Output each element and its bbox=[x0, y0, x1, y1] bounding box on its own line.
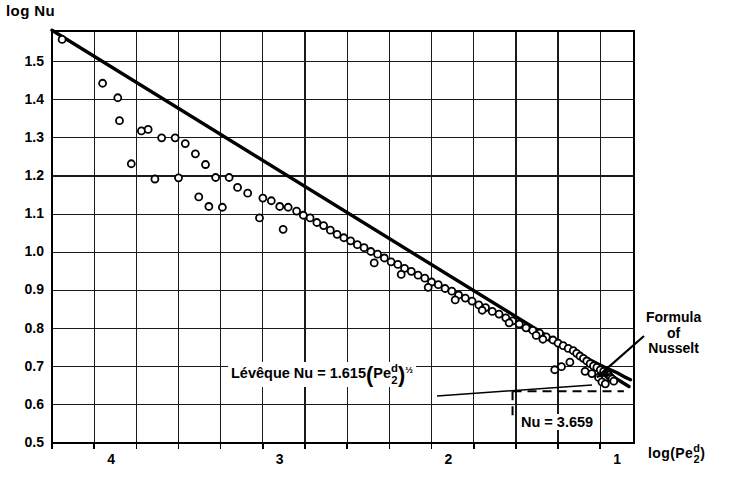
y-tick-label: 0.8 bbox=[2, 320, 44, 336]
x-axis-label-suffix: ) bbox=[700, 445, 705, 461]
x-axis-label-base: Pe bbox=[675, 445, 693, 461]
chart-figure: log Nu log(Ped2) 0.50.60.70.80.91.01.11.… bbox=[0, 0, 736, 479]
leveque-exponent: ⅓ bbox=[405, 365, 413, 375]
y-tick-label: 1.3 bbox=[2, 129, 44, 145]
y-tick-label: 1.1 bbox=[2, 205, 44, 221]
y-tick-label: 0.5 bbox=[2, 434, 44, 450]
x-axis-label: log(Ped2) bbox=[648, 443, 705, 465]
x-tick-label: 4 bbox=[96, 451, 126, 467]
formula-of-nusselt-annotation: Formula of Nusselt bbox=[646, 310, 701, 357]
y-tick-label: 1.0 bbox=[2, 243, 44, 259]
x-tick-label: 2 bbox=[433, 451, 463, 467]
data-points bbox=[59, 36, 618, 387]
y-tick-label: 1.4 bbox=[2, 91, 44, 107]
leveque-fraction: d2 bbox=[391, 363, 398, 386]
x-tick-label: 1 bbox=[602, 451, 632, 467]
x-tick-label: 3 bbox=[265, 451, 295, 467]
nu-asymptote-annotation: Nu = 3.659 bbox=[518, 414, 596, 430]
y-tick-label: 1.2 bbox=[2, 167, 44, 183]
leveque-formula-prefix: Lévêque Nu = 1.615 bbox=[231, 365, 366, 381]
leveque-formula-annotation: Lévêque Nu = 1.615(Ped2)⅓ bbox=[228, 362, 416, 387]
plot-canvas bbox=[0, 0, 736, 479]
x-axis-label-prefix: log( bbox=[648, 445, 675, 461]
y-tick-label: 0.7 bbox=[2, 358, 44, 374]
y-tick-label: 0.9 bbox=[2, 281, 44, 297]
leveque-base: Pe bbox=[373, 365, 391, 381]
formula-of-nusselt-line3: Nusselt bbox=[646, 341, 701, 357]
annotation-leaders bbox=[437, 336, 644, 396]
y-tick-label: 1.5 bbox=[2, 53, 44, 69]
y-tick-label: 0.6 bbox=[2, 396, 44, 412]
formula-of-nusselt-line2: of bbox=[646, 326, 701, 342]
formula-of-nusselt-line1: Formula bbox=[646, 310, 701, 326]
y-axis-label: log Nu bbox=[6, 2, 55, 19]
